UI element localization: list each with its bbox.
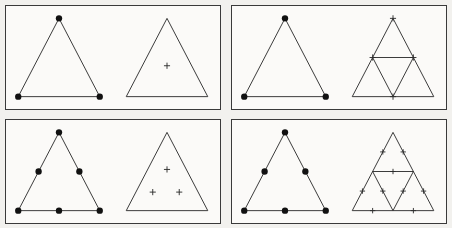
figure-subdivided-triangle-with-tick-marks — [352, 132, 434, 213]
dot-left-edge-mid — [35, 168, 41, 174]
figure-dotted-triangle — [241, 15, 329, 100]
mark-right-edge-mid — [410, 54, 416, 60]
mark-top — [164, 166, 170, 172]
dot-base-mid — [282, 207, 288, 213]
panel-canvas — [6, 6, 220, 109]
mark-mid-horizontal — [390, 169, 395, 174]
panel-top-left — [5, 5, 221, 110]
triangle-outline — [18, 132, 100, 210]
figure-dotted-triangle — [241, 129, 329, 214]
panel-bottom-right — [231, 119, 447, 224]
dot-left-edge-mid — [261, 168, 267, 174]
dot-bottom-right — [323, 207, 329, 213]
mark-top-tri-right-edge — [401, 149, 406, 154]
mark-left-edge-mid — [370, 54, 376, 60]
dot-bottom-left — [241, 207, 247, 213]
panel-canvas — [232, 6, 446, 109]
panel-canvas — [6, 120, 220, 223]
triangle-outline — [18, 18, 100, 96]
panel-top-right — [231, 5, 447, 110]
mark-top-tri-left-edge — [380, 149, 385, 154]
triangle-outline — [244, 132, 326, 210]
mark-right-tri-left-edge — [401, 188, 406, 193]
dot-bottom-right — [97, 93, 103, 99]
panel-bottom-left — [5, 119, 221, 224]
subdivision-line-left — [373, 58, 393, 97]
mark-apex — [390, 15, 396, 21]
triangle-outline — [126, 18, 208, 96]
panel-canvas — [232, 120, 446, 223]
dot-bottom-left — [15, 93, 21, 99]
figure-subdivided-triangle-with-marks — [352, 15, 434, 99]
dot-apex — [56, 129, 62, 135]
figure-dotted-triangle — [15, 129, 103, 214]
dot-apex — [56, 15, 62, 21]
mark-bottom-right — [176, 189, 182, 195]
dot-bottom-left — [15, 207, 21, 213]
dot-bottom-right — [97, 207, 103, 213]
dot-right-edge-mid — [76, 168, 82, 174]
subdivision-line-right — [393, 58, 413, 97]
figure-plain-triangle-with-marks — [126, 132, 208, 210]
mark-base-left — [370, 208, 375, 213]
mark-right-tri-right-edge — [421, 188, 426, 193]
triangle-outline — [244, 18, 326, 96]
dot-right-edge-mid — [302, 168, 308, 174]
panel-grid — [0, 0, 452, 228]
mark-m0 — [164, 63, 170, 69]
mark-left-tri-left-edge — [360, 188, 365, 193]
dot-bottom-left — [241, 93, 247, 99]
dot-base-mid — [56, 207, 62, 213]
dot-apex — [282, 15, 288, 21]
mark-bottom-left — [150, 189, 156, 195]
figure-dotted-triangle — [15, 15, 103, 100]
dot-bottom-right — [323, 93, 329, 99]
dot-apex — [282, 129, 288, 135]
mark-left-tri-right-edge — [380, 188, 385, 193]
mark-base-mid — [390, 94, 396, 100]
figure-plain-triangle-with-marks — [126, 18, 208, 96]
mark-base-right — [411, 208, 416, 213]
